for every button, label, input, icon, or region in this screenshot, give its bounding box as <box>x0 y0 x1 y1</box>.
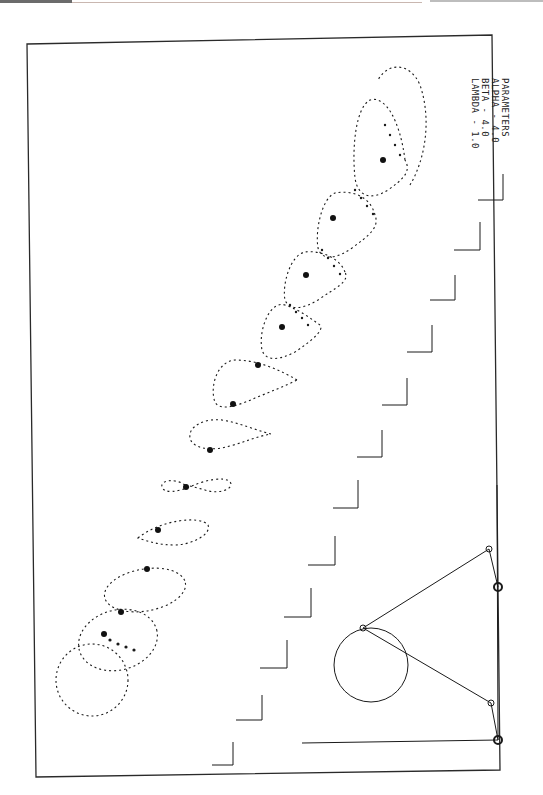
key-points <box>101 157 386 637</box>
parameters-legend: PARAMETERSALPHA - 4.0BETA - 4.0LAMBDA - … <box>470 78 510 149</box>
parameter-beta: BETA - 4.0 <box>480 78 490 149</box>
parameter-lambda: LAMBDA - 1.0 <box>470 78 480 149</box>
chord-dots <box>108 124 401 652</box>
four-bar-linkage <box>302 485 502 744</box>
step-markers <box>212 174 503 765</box>
trajectory-figure <box>0 0 543 795</box>
figure-frame <box>27 35 500 777</box>
parameter-alpha: ALPHA - 4.0 <box>490 78 500 149</box>
parameters-title: PARAMETERS <box>500 78 510 149</box>
coupler-curves <box>56 67 426 716</box>
